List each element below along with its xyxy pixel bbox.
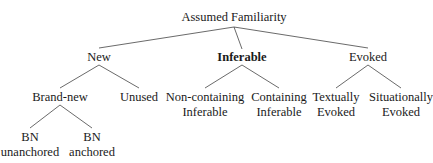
node-containing-inferable: Containing Inferable	[251, 90, 307, 120]
edge-new-unused	[99, 65, 139, 88]
node-label-line2: anchored	[69, 145, 115, 160]
edge-root-new	[99, 27, 234, 48]
edge-inferable-noncontaining	[205, 65, 242, 88]
node-inferable: Inferable	[217, 50, 266, 65]
node-noncontaining-inferable: Non-containing Inferable	[166, 90, 244, 120]
node-label-line2: Inferable	[166, 105, 244, 120]
edge-brandnew-unanchored	[30, 105, 60, 128]
edge-root-inferable	[234, 27, 242, 49]
node-label-line1: Situationally	[369, 90, 433, 105]
node-brand-new: Brand-new	[32, 90, 88, 105]
edge-evoked-textually	[336, 65, 368, 88]
node-label-line1: Containing	[251, 90, 307, 105]
node-label-line2: Evoked	[312, 105, 359, 120]
edge-new-brandnew	[60, 65, 99, 88]
node-bn-unanchored: BN unanchored	[1, 130, 59, 160]
node-label-line2: unanchored	[1, 145, 59, 160]
node-bn-anchored: BN anchored	[69, 130, 115, 160]
edge-inferable-containing	[242, 65, 279, 88]
node-label-line1: Textually	[312, 90, 359, 105]
node-unused: Unused	[120, 90, 158, 105]
node-new: New	[87, 50, 111, 65]
node-label-line2: Evoked	[369, 105, 433, 120]
edge-root-evoked	[234, 27, 368, 48]
node-label-line1: BN	[1, 130, 59, 145]
edge-brandnew-anchored	[60, 105, 92, 128]
node-situationally-evoked: Situationally Evoked	[369, 90, 433, 120]
node-textually-evoked: Textually Evoked	[312, 90, 359, 120]
node-evoked: Evoked	[349, 50, 387, 65]
node-label-line1: BN	[69, 130, 115, 145]
edge-evoked-situationally	[368, 65, 401, 88]
node-root: Assumed Familiarity	[181, 10, 286, 25]
node-label-line1: Non-containing	[166, 90, 244, 105]
node-label-line2: Inferable	[251, 105, 307, 120]
